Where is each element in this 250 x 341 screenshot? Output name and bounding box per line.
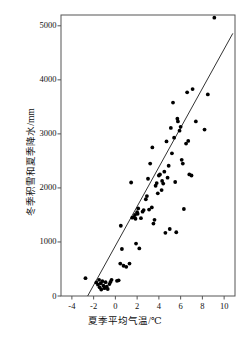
data-point bbox=[120, 247, 124, 251]
data-point bbox=[174, 230, 178, 234]
data-point bbox=[171, 101, 175, 105]
data-point bbox=[150, 205, 154, 209]
data-point bbox=[194, 120, 198, 124]
x-axis-title: 夏季平均气温/℃ bbox=[0, 313, 250, 327]
data-point bbox=[117, 278, 121, 282]
data-point bbox=[182, 207, 186, 211]
data-point bbox=[153, 218, 157, 222]
data-point bbox=[148, 162, 152, 166]
data-point bbox=[162, 170, 166, 174]
axis-ticks bbox=[58, 26, 225, 300]
regression-line bbox=[88, 33, 233, 296]
data-point bbox=[169, 126, 173, 130]
data-point bbox=[100, 279, 104, 283]
data-point bbox=[144, 197, 148, 201]
data-point bbox=[166, 176, 170, 180]
y-tick-label: 5000 bbox=[17, 20, 57, 30]
data-point bbox=[99, 288, 103, 292]
data-point bbox=[161, 182, 165, 186]
data-point bbox=[119, 224, 123, 228]
data-point bbox=[152, 222, 156, 226]
data-point bbox=[136, 207, 140, 211]
data-point bbox=[124, 265, 128, 269]
data-point bbox=[118, 262, 122, 266]
data-point bbox=[155, 181, 159, 185]
data-point bbox=[191, 87, 195, 91]
data-point bbox=[97, 278, 101, 282]
data-point bbox=[84, 276, 88, 280]
data-point bbox=[179, 125, 183, 129]
plot-frame bbox=[61, 15, 235, 296]
data-point bbox=[212, 16, 216, 20]
y-tick-label: 0 bbox=[17, 291, 57, 301]
data-point bbox=[134, 217, 138, 221]
chart-figure: -4-20246810010002000300040005000 夏季平均气温/… bbox=[0, 0, 250, 341]
data-point bbox=[190, 174, 194, 178]
data-point bbox=[128, 262, 132, 266]
data-point bbox=[110, 278, 114, 282]
data-point bbox=[137, 247, 141, 251]
data-point bbox=[150, 145, 154, 149]
x-tick-label: 10 bbox=[209, 301, 239, 311]
data-point bbox=[168, 227, 172, 231]
data-point bbox=[164, 231, 168, 235]
data-point bbox=[104, 280, 108, 284]
data-point bbox=[186, 139, 190, 143]
data-point bbox=[176, 120, 180, 124]
data-point bbox=[158, 173, 162, 177]
data-point bbox=[146, 177, 150, 181]
data-point bbox=[170, 151, 174, 155]
data-point bbox=[167, 164, 171, 168]
data-point bbox=[185, 90, 189, 94]
data-point bbox=[106, 287, 110, 291]
data-point bbox=[165, 140, 169, 144]
data-point bbox=[178, 129, 182, 133]
data-points bbox=[84, 16, 217, 292]
data-point bbox=[172, 136, 176, 140]
data-point bbox=[136, 212, 140, 216]
data-point bbox=[203, 128, 207, 132]
data-point bbox=[145, 194, 149, 198]
data-point bbox=[142, 208, 146, 212]
data-point bbox=[206, 93, 210, 97]
data-point bbox=[181, 162, 185, 166]
data-point bbox=[129, 181, 133, 185]
data-point bbox=[173, 180, 177, 184]
data-point bbox=[160, 188, 164, 192]
data-point bbox=[156, 191, 160, 195]
data-point bbox=[139, 216, 143, 220]
y-axis-title: 冬季积雪和夏季降水/mm bbox=[23, 72, 37, 252]
data-point bbox=[134, 242, 138, 246]
data-point bbox=[180, 158, 184, 162]
